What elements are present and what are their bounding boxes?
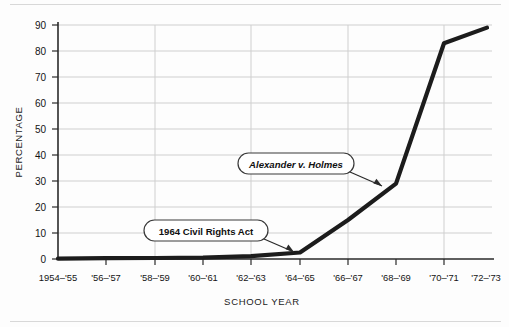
annotation-arrowhead [286, 245, 294, 252]
x-tick-label: '56–'57 [91, 272, 121, 283]
y-tick-label: 90 [35, 20, 47, 31]
data-series-line [58, 28, 487, 259]
x-tick-label: '64–'65 [285, 272, 315, 283]
horizontal-gridlines [58, 25, 492, 233]
x-tick-label: 1954–'55 [39, 272, 77, 283]
y-tick-label: 10 [35, 228, 47, 239]
annotation-arrowhead [373, 179, 382, 186]
chart-figure: 90 80 70 60 50 40 30 20 10 0 1954–'55 '5… [0, 0, 509, 327]
y-tick-label: 40 [35, 150, 47, 161]
x-tick-label: '68–'69 [381, 272, 411, 283]
y-tick-label: 50 [35, 124, 47, 135]
x-tick-label: '60–'61 [188, 272, 218, 283]
desegregation-line-chart: 90 80 70 60 50 40 30 20 10 0 1954–'55 '5… [0, 0, 509, 327]
y-tick-label: 60 [35, 98, 47, 109]
y-tick-label: 80 [35, 46, 47, 57]
y-tick-marks [52, 25, 58, 259]
x-tick-labels: 1954–'55 '56–'57 '58–'59 '60–'61 '62–'63… [39, 272, 501, 283]
x-tick-label: '70–'71 [429, 272, 459, 283]
y-tick-labels: 90 80 70 60 50 40 30 20 10 0 [35, 20, 47, 265]
y-tick-label: 30 [35, 176, 47, 187]
x-tick-label: '66–'67 [333, 272, 363, 283]
x-tick-label: '58–'59 [140, 272, 170, 283]
x-axis-title: SCHOOL YEAR [224, 296, 300, 307]
y-tick-label: 0 [40, 254, 46, 265]
annotation-label: 1964 Civil Rights Act [159, 226, 254, 237]
annotation-label: Alexander v. Holmes [248, 159, 343, 170]
y-axis-title: PERCENTAGE [13, 107, 24, 178]
x-tick-label: '62–'63 [236, 272, 266, 283]
annotation-civil-rights-act: 1964 Civil Rights Act [144, 220, 294, 252]
y-tick-label: 70 [35, 72, 47, 83]
y-tick-label: 20 [35, 202, 47, 213]
x-tick-label: '72–'73 [471, 272, 501, 283]
